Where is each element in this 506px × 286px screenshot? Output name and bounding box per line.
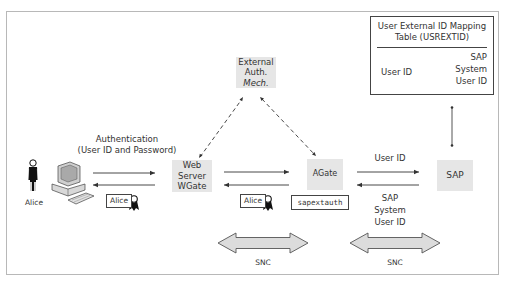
external-auth-mechanism-node: External Auth. Mech. — [236, 57, 276, 88]
snc-arrow-icon-1 — [218, 233, 308, 253]
user-external-id-mapping-table: User External ID Mapping Table (USREXTID… — [370, 16, 494, 95]
person-icon — [28, 160, 38, 191]
mapping-right-line3: User ID — [455, 75, 487, 87]
snc-label-1: SNC — [248, 258, 278, 267]
mapping-table-title-line2: Table (USREXTID) — [371, 32, 493, 43]
dashed-arrow-wgate-external-auth — [199, 97, 243, 158]
external-auth-line2: Auth. — [238, 67, 273, 78]
computer-icon — [52, 162, 94, 204]
snc-label-2: SNC — [380, 258, 410, 267]
agate-node: AGate — [307, 159, 343, 190]
authentication-line2: (User ID and Password) — [62, 145, 192, 156]
sap-user-line2: System — [365, 204, 415, 216]
arrow-mapping-sap — [451, 106, 454, 147]
mapping-table-title: User External ID Mapping Table (USREXTID… — [371, 21, 493, 43]
sapextauth-box: sapextauth — [291, 195, 349, 210]
authentication-label: Authentication (User ID and Password) — [62, 134, 192, 156]
external-auth-line3: Mech. — [238, 78, 273, 89]
mapping-table-title-line1: User External ID Mapping — [371, 21, 493, 32]
web-server-line2: Server — [178, 171, 207, 182]
sap-node: SAP — [437, 160, 473, 191]
mapping-table-divider — [377, 47, 487, 48]
mapping-right-line1: SAP — [455, 51, 487, 63]
sap-system-user-id-edge-label: SAP System User ID — [365, 192, 415, 228]
sap-user-line3: User ID — [365, 216, 415, 228]
mapping-sap-user-id-label: SAP System User ID — [455, 51, 487, 87]
snc-arrow-icon-2 — [350, 233, 440, 253]
alice-certificate-1: Alice — [106, 194, 132, 208]
authentication-line1: Authentication — [62, 134, 192, 145]
alice-label: Alice — [24, 198, 44, 207]
web-server-wgate-node: Web Server WGate — [172, 160, 212, 192]
web-server-line3: WGate — [178, 181, 207, 192]
mapping-user-id-label: User ID — [381, 67, 412, 77]
mapping-right-line2: System — [455, 63, 487, 75]
user-id-edge-label: User ID — [365, 153, 415, 164]
alice-certificate-2: Alice — [240, 194, 266, 208]
external-auth-line1: External — [238, 57, 273, 68]
sap-user-line1: SAP — [365, 192, 415, 204]
web-server-line1: Web — [178, 160, 207, 171]
dashed-arrow-external-auth-agate — [260, 97, 316, 156]
